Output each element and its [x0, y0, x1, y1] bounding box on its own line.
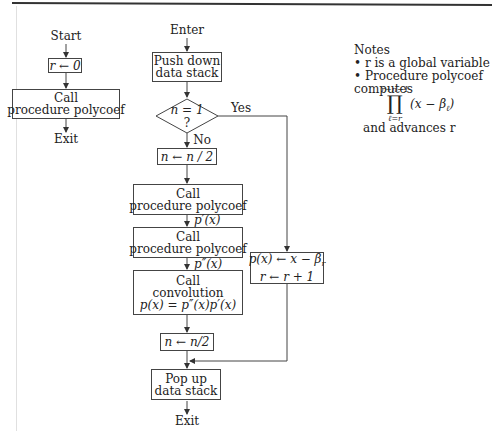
halve-n-text-2: n ← n/2 — [165, 336, 210, 348]
call-polycoef-box-left: Call procedure polycoef — [12, 89, 120, 119]
decision-question: ? — [177, 117, 197, 129]
increment-r-line: r ← r + 1 — [260, 271, 314, 283]
call-polycoef-box-2: Call procedure polycoef — [133, 227, 243, 258]
conv-formula: p(x) = p″(x)p′(x) — [140, 299, 236, 311]
assign-p-box: p(x) ← x − βr r ← r + 1 — [250, 252, 324, 284]
exit-label-main: Exit — [167, 415, 207, 427]
pop-line1: Pop up — [165, 373, 207, 385]
halve-n-box-1: n ← n / 2 — [157, 148, 217, 165]
product-term: (x − βℓ) — [410, 98, 454, 115]
assign-p-line1: p(x) ← x − βr — [249, 253, 326, 270]
no-label: No — [190, 134, 214, 146]
decision-condition: n = 1 — [167, 104, 207, 116]
edge-label-p-double-prime: p″(x) — [194, 258, 224, 270]
product-symbol: ∏ — [380, 93, 410, 113]
halve-n-text-1: n ← n / 2 — [161, 151, 213, 163]
conv-line2: convolution — [153, 287, 224, 299]
call-polycoef-box-1: Call procedure polycoef — [133, 184, 243, 215]
yes-label: Yes — [226, 102, 256, 114]
call1-line1: Call — [176, 188, 200, 200]
push-line2: data stack — [156, 67, 219, 79]
init-r-text: r ← 0 — [49, 60, 80, 72]
call2-line2: procedure polycoef — [129, 243, 247, 255]
edge-label-p-prime: p′(x) — [194, 214, 224, 226]
notes-last-line: and advances r — [363, 122, 455, 134]
pop-line2: data stack — [155, 385, 218, 397]
pop-stack-box: Pop up data stack — [151, 369, 221, 400]
enter-label: Enter — [162, 24, 212, 36]
start-label: Start — [46, 30, 86, 42]
exit-label-left: Exit — [46, 133, 86, 145]
call2-line1: Call — [176, 231, 200, 243]
init-r-box: r ← 0 — [48, 58, 82, 73]
conv-line1: Call — [176, 275, 200, 287]
call-convolution-box: Call convolution p(x) = p″(x)p′(x) — [133, 270, 243, 315]
push-stack-box: Push down data stack — [152, 52, 222, 82]
halve-n-box-2: n ← n/2 — [160, 333, 214, 351]
call1-line2: procedure polycoef — [129, 200, 247, 212]
procedure-label: procedure polycoef — [7, 104, 125, 116]
